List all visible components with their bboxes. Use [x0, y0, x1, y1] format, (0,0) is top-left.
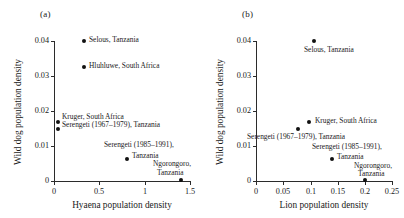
panel-b-y-tick-4 — [253, 41, 256, 42]
panel-a-x-axis-line — [54, 181, 191, 182]
panel-b-x-tick-label-3: 0.15 — [323, 187, 353, 196]
panel-a-x-tick-2 — [145, 182, 146, 185]
panel-a-x-tick-3 — [190, 182, 191, 185]
panel-b-point-selous — [312, 39, 316, 43]
panel-a-label: (a) — [40, 9, 51, 19]
panel-a-x-axis-title: Hyaena population density — [42, 200, 202, 210]
panel-b-point-serengeti-late — [330, 157, 334, 161]
panel-b-x-tick-3 — [338, 182, 339, 185]
panel-a-x-tick-label-0: 0 — [39, 187, 69, 196]
panel-b-label-selous: Selous, Tanzania — [304, 46, 354, 55]
panel-b-label-serengeti-early: Serengeti (1967–1979), Tanzania — [247, 133, 345, 142]
panel-b-point-serengeti-early — [296, 127, 300, 131]
panel-a-point-serengeti-late — [125, 157, 129, 161]
panel-a-point-kruger — [56, 120, 60, 124]
panel-a-point-ngorongoro — [179, 178, 183, 182]
panel-a-y-tick-2 — [51, 111, 54, 112]
panel-b-label-ngorongoro-line2: Tanzania — [358, 170, 385, 179]
panel-b-x-tick-1 — [283, 182, 284, 185]
panel-b-x-tick-5 — [392, 182, 393, 185]
panel-b-x-tick-label-2: 0.1 — [296, 187, 326, 196]
panel-a-y-tick-1 — [51, 146, 54, 147]
panel-b: (b) 0 0.01 0.02 0.03 0.04 0 0.05 0.1 0.1… — [202, 0, 404, 218]
figure-scatter-panels: (a) 0 0.01 0.02 0.03 0.04 0 0.5 1 1.5 Hy… — [0, 0, 404, 218]
panel-a-label-selous: Selous, Tanzania — [89, 36, 139, 45]
panel-b-y-tick-2 — [253, 111, 256, 112]
panel-a-x-tick-label-2: 1 — [130, 187, 160, 196]
panel-a-point-hluhluwe — [82, 65, 86, 69]
panel-a-x-tick-label-1: 0.5 — [84, 187, 114, 196]
panel-b-y-tick-1 — [253, 146, 256, 147]
panel-a-label-serengeti-late-line1: Serengeti (1985–1991), — [104, 141, 174, 150]
panel-b-point-kruger — [307, 120, 311, 124]
panel-a-label-ngorongoro-line2: Tanzania — [157, 169, 184, 178]
panel-b-x-tick-label-4: 0.2 — [350, 187, 380, 196]
panel-b-x-axis-line — [256, 181, 393, 182]
panel-a-y-tick-4 — [51, 41, 54, 42]
panel-b-label: (b) — [242, 9, 253, 19]
panel-b-y-axis-line — [256, 41, 257, 182]
panel-b-x-tick-label-1: 0.05 — [268, 187, 298, 196]
panel-a-x-tick-1 — [99, 182, 100, 185]
panel-a-x-tick-label-3: 1.5 — [175, 187, 205, 196]
panel-b-x-tick-4 — [365, 182, 366, 185]
panel-a-point-selous — [82, 39, 86, 43]
panel-a-x-tick-0 — [54, 182, 55, 185]
panel-b-label-serengeti-late-line1: Serengeti (1985–1991), — [312, 143, 382, 152]
panel-a-label-serengeti-early: Serengeti (1967–1979), Tanzania — [62, 121, 160, 130]
panel-a-y-axis-line — [54, 41, 55, 182]
panel-b-x-axis-title: Lion population density — [244, 200, 404, 210]
panel-a-point-serengeti-early — [56, 127, 60, 131]
panel-b-y-axis-title: Wild dog population density — [215, 37, 225, 187]
panel-b-point-ngorongoro — [363, 178, 367, 182]
panel-b-y-tick-3 — [253, 76, 256, 77]
panel-b-x-tick-2 — [311, 182, 312, 185]
panel-a-y-axis-title: Wild dog population density — [13, 37, 23, 187]
panel-a-label-hluhluwe: Hluhluwe, South Africa — [89, 62, 159, 71]
panel-b-x-tick-label-5: 0.25 — [377, 187, 404, 196]
panel-b-x-tick-label-0: 0 — [241, 187, 271, 196]
panel-b-label-kruger: Kruger, South Africa — [315, 117, 377, 126]
panel-b-x-tick-0 — [256, 182, 257, 185]
panel-a-y-tick-3 — [51, 76, 54, 77]
panel-a: (a) 0 0.01 0.02 0.03 0.04 0 0.5 1 1.5 Hy… — [0, 0, 202, 218]
